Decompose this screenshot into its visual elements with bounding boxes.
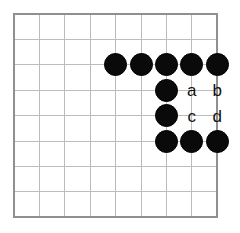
grid-lines-group (14, 14, 217, 217)
go-board-grid[interactable] (0, 0, 240, 233)
go-board-diagram: abcd (0, 0, 240, 233)
